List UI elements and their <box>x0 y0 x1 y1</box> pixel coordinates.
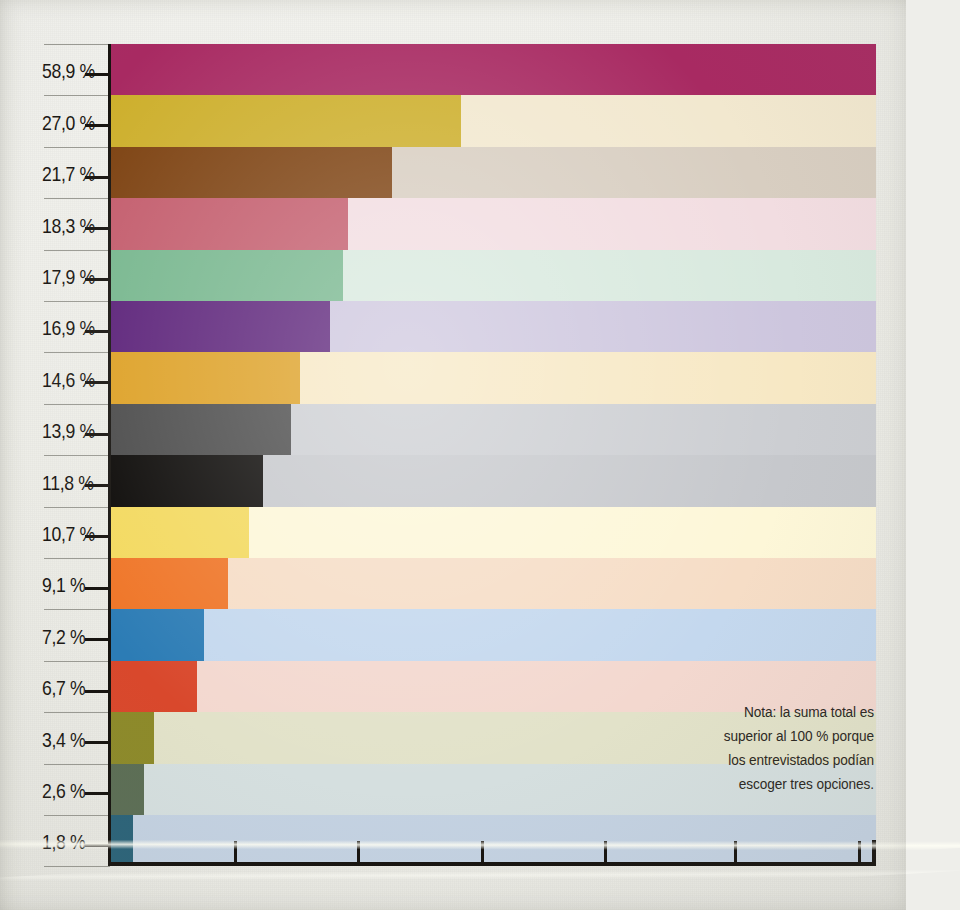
bar-value-label: 9,1 % <box>42 573 97 597</box>
bar-segment[interactable] <box>110 558 228 609</box>
row-separator <box>44 455 110 456</box>
bar-segment[interactable] <box>110 455 263 506</box>
bar-value-label: 16,9 % <box>42 316 97 340</box>
bar-remainder-tint <box>348 198 876 249</box>
bar-remainder-tint <box>249 507 876 558</box>
row-separator <box>44 352 110 353</box>
bar-row <box>0 250 906 301</box>
row-separator <box>44 866 110 867</box>
bar-row <box>0 95 906 146</box>
x-axis-tick <box>357 841 360 862</box>
bar-row <box>0 558 906 609</box>
bar-row <box>0 352 906 403</box>
chart-note: Nota: la suma total es superior al 100 %… <box>654 700 874 796</box>
bar-segment[interactable] <box>110 609 204 660</box>
bar-segment[interactable] <box>110 661 197 712</box>
bar-row <box>0 404 906 455</box>
bar-remainder-tint <box>133 815 876 866</box>
bar-row <box>0 198 906 249</box>
bar-segment[interactable] <box>110 44 876 95</box>
bar-segment[interactable] <box>110 198 348 249</box>
bar-segment[interactable] <box>110 301 330 352</box>
row-separator <box>44 558 110 559</box>
bar-value-label: 2,6 % <box>42 779 97 803</box>
bar-remainder-tint <box>392 147 876 198</box>
bar-segment[interactable] <box>110 250 343 301</box>
bar-value-label: 6,7 % <box>42 676 97 700</box>
y-axis-line <box>108 44 111 866</box>
row-separator <box>44 147 110 148</box>
bar-segment[interactable] <box>110 815 133 866</box>
bar-value-label: 18,3 % <box>42 214 97 238</box>
bar-remainder-tint <box>343 250 876 301</box>
note-line-2: superior al 100 % porque <box>654 724 874 748</box>
bar-value-label: 3,4 % <box>42 728 97 752</box>
bar-value-label: 1,8 % <box>42 830 97 854</box>
bar-value-label: 10,7 % <box>42 522 97 546</box>
bar-value-label: 27,0 % <box>42 111 97 135</box>
bar-row <box>0 301 906 352</box>
bar-row <box>0 147 906 198</box>
bar-segment[interactable] <box>110 764 144 815</box>
row-separator <box>44 712 110 713</box>
bar-remainder-tint <box>263 455 876 506</box>
bar-segment[interactable] <box>110 95 461 146</box>
row-separator <box>44 301 110 302</box>
x-axis-line <box>108 862 876 866</box>
note-line-3: los entrevistados podían <box>654 748 874 772</box>
row-separator <box>44 815 110 816</box>
bar-remainder-tint <box>330 301 876 352</box>
bar-value-label: 21,7 % <box>42 162 97 186</box>
x-axis-tick <box>734 841 737 862</box>
row-separator <box>44 44 110 45</box>
note-line-1: Nota: la suma total es <box>654 700 874 724</box>
bar-remainder-tint <box>300 352 876 403</box>
row-separator <box>44 661 110 662</box>
x-axis-tick <box>858 841 861 862</box>
bar-remainder-tint <box>228 558 876 609</box>
bar-segment[interactable] <box>110 712 154 763</box>
bar-row <box>0 455 906 506</box>
bar-row <box>0 507 906 558</box>
x-axis-tick <box>481 841 484 862</box>
bar-row <box>0 44 906 95</box>
row-separator <box>44 95 110 96</box>
row-separator <box>44 764 110 765</box>
bar-remainder-tint <box>461 95 876 146</box>
bar-segment[interactable] <box>110 147 392 198</box>
row-separator <box>44 507 110 508</box>
x-axis-right-cap <box>872 840 876 866</box>
note-line-4: escoger tres opciones. <box>654 772 874 796</box>
x-axis-tick <box>604 841 607 862</box>
row-separator <box>44 609 110 610</box>
bar-row <box>0 609 906 660</box>
bar-value-label: 13,9 % <box>42 419 97 443</box>
bar-remainder-tint <box>291 404 876 455</box>
bar-value-label: 7,2 % <box>42 625 97 649</box>
bar-value-label: 17,9 % <box>42 265 97 289</box>
row-separator <box>44 198 110 199</box>
bar-value-label: 58,9 % <box>42 59 97 83</box>
bar-segment[interactable] <box>110 352 300 403</box>
bar-remainder-tint <box>204 609 876 660</box>
bar-segment[interactable] <box>110 404 291 455</box>
bar-row <box>0 815 906 866</box>
row-separator <box>44 250 110 251</box>
x-axis-tick <box>234 841 237 862</box>
bar-segment[interactable] <box>110 507 249 558</box>
bar-value-label: 11,8 % <box>42 471 97 495</box>
row-separator <box>44 404 110 405</box>
bar-value-label: 14,6 % <box>42 368 97 392</box>
